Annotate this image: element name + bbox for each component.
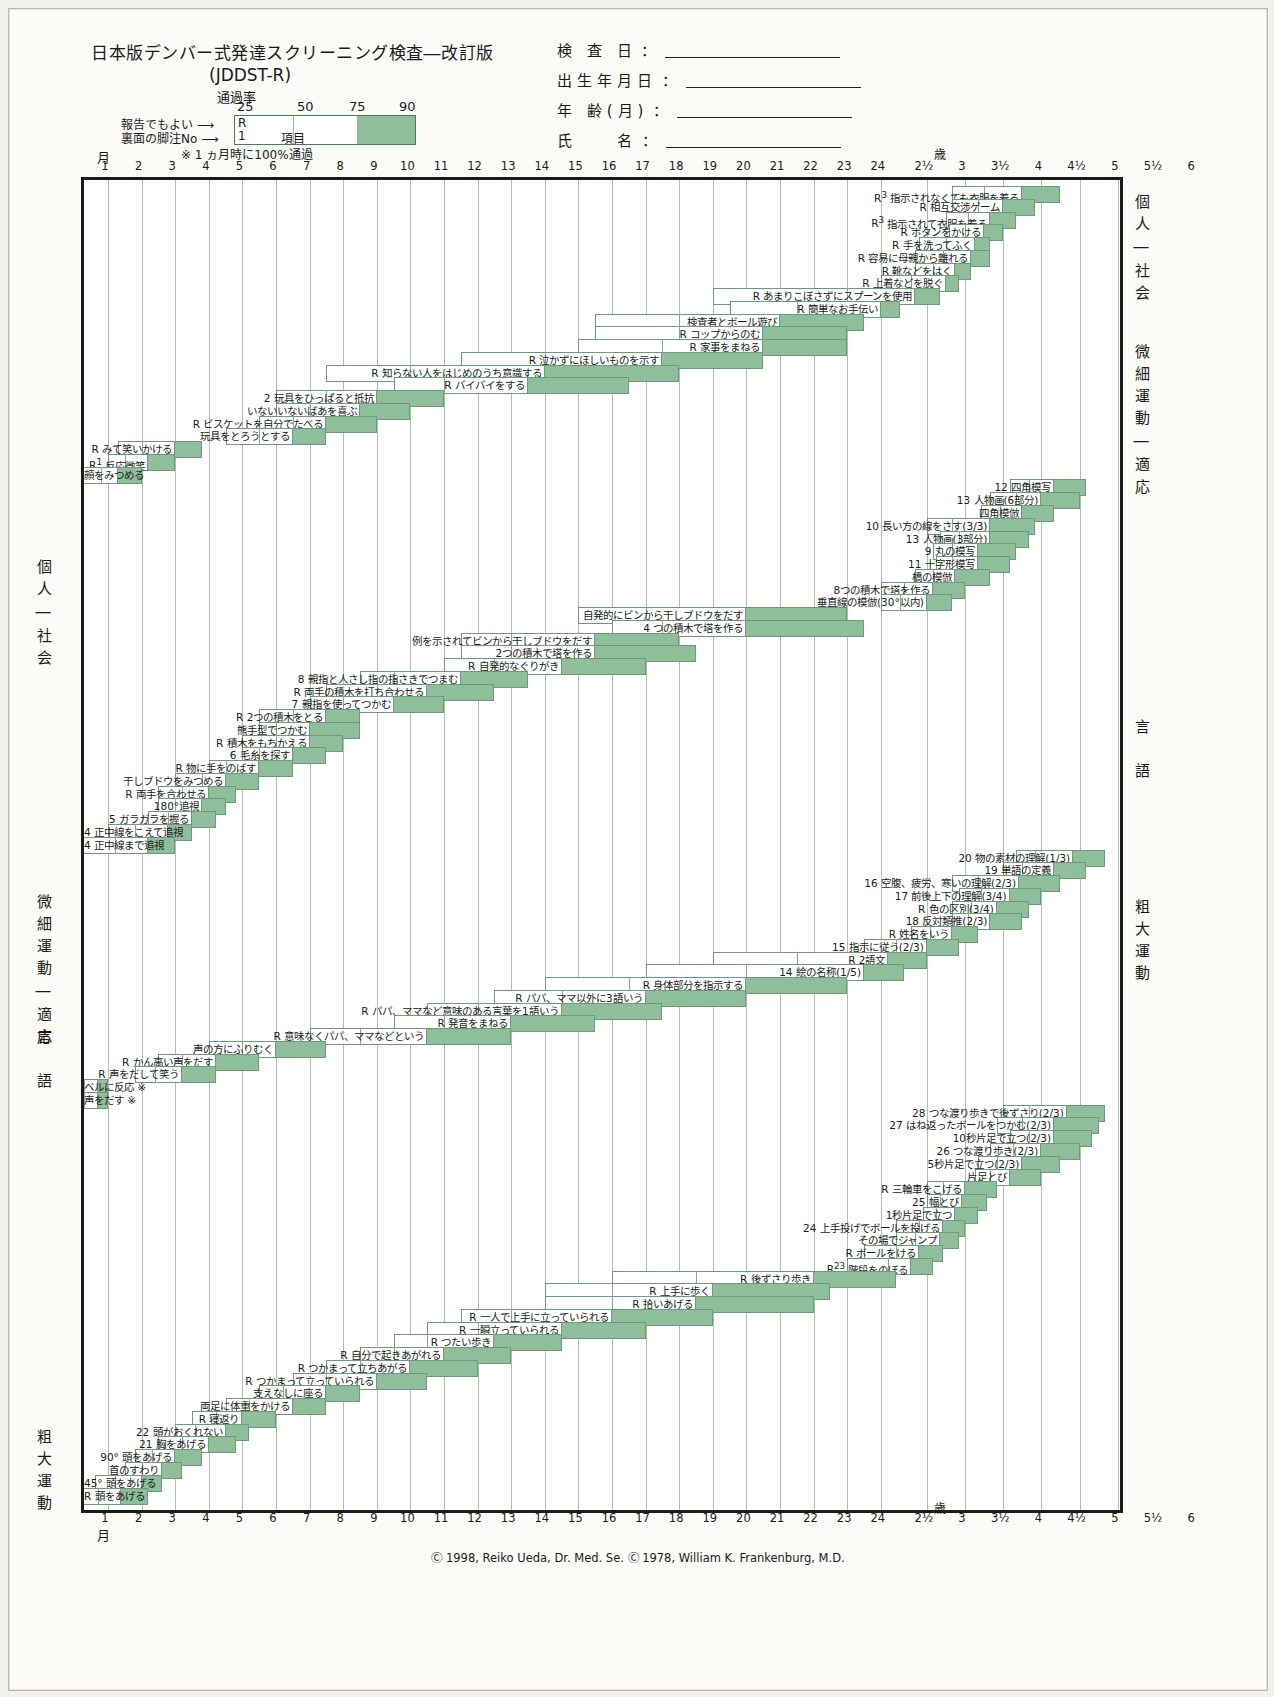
domain-label-right-gross-motor: 粗大運動 <box>1133 899 1148 987</box>
axis-tick-2½: 2½ <box>915 159 933 173</box>
axis-tick-5: 5 <box>236 159 243 173</box>
axis-tick-15: 15 <box>568 1511 583 1525</box>
name-input[interactable] <box>666 133 841 148</box>
axis-tick-13: 13 <box>501 159 516 173</box>
axis-tick-20: 20 <box>736 1511 751 1525</box>
axis-tick-18: 18 <box>669 159 684 173</box>
axis-tick-3½: 3½ <box>991 159 1009 173</box>
milestone-bar[interactable]: R 頭をあげる <box>84 1488 1120 1505</box>
developmental-chart: R3 指示されなくても衣服を着るR 相互交渉ゲームR3 指示されて衣服を着るR … <box>81 177 1123 1513</box>
axis-tick-10: 10 <box>400 159 415 173</box>
axis-tick-13: 13 <box>501 1511 516 1525</box>
axis-tick-7: 7 <box>303 1511 310 1525</box>
axis-tick-14: 14 <box>534 159 549 173</box>
axis-tick-3: 3 <box>958 159 965 173</box>
axis-tick-11: 11 <box>434 159 449 173</box>
chart-plot-area: R3 指示されなくても衣服を着るR 相互交渉ゲームR3 指示されて衣服を着るR … <box>84 180 1120 1510</box>
axis-tick-6: 6 <box>1188 159 1195 173</box>
axis-tick-1: 1 <box>101 1511 108 1525</box>
legend-footnote-number: 1 <box>238 129 246 143</box>
axis-tick-17: 17 <box>635 159 650 173</box>
axis-tick-17: 17 <box>635 1511 650 1525</box>
axis-tick-18: 18 <box>669 1511 684 1525</box>
page-title: 日本版デンバー式発達スクリーニング検査―改訂版 <box>91 39 494 64</box>
axis-tick-2: 2 <box>135 159 142 173</box>
bar-text: R 頭をあげる <box>84 1488 121 1505</box>
domain-label-left-gross-motor: 粗大運動 <box>35 1429 50 1517</box>
colon: ： <box>653 102 668 120</box>
legend-green-zone <box>357 116 415 144</box>
domain-label-right-fine-motor: 微細運動―適応 <box>1133 344 1148 501</box>
domain-label-right-personal-social: 個人―社会 <box>1133 194 1148 307</box>
axis-tick-4: 4 <box>202 159 209 173</box>
axis-unit-year-bottom: 歳 <box>934 1499 946 1516</box>
axis-tick-23: 23 <box>837 1511 852 1525</box>
axis-tick-14: 14 <box>534 1511 549 1525</box>
bar-prefix: R <box>84 1490 91 1502</box>
name-row: 氏 名 ： <box>557 129 841 150</box>
axis-tick-5½: 5½ <box>1144 1511 1162 1525</box>
axis-tick-10: 10 <box>400 1511 415 1525</box>
axis-unit-month-bottom: 月 <box>97 1525 110 1544</box>
name-label: 氏 名 <box>557 129 637 150</box>
axis-tick-3½: 3½ <box>991 1511 1009 1525</box>
axis-tick-9: 9 <box>370 159 377 173</box>
pct-tick-90: 90 <box>399 99 416 114</box>
axis-tick-8: 8 <box>337 159 344 173</box>
axis-tick-12: 12 <box>467 159 482 173</box>
page-subtitle: (JDDST-R) <box>209 65 291 85</box>
colon: ： <box>641 42 656 60</box>
axis-tick-22: 22 <box>803 1511 818 1525</box>
axis-top: 1234567891011121314151617181920212223242… <box>81 159 1117 175</box>
axis-bottom: 1234567891011121314151617181920212223242… <box>81 1511 1117 1527</box>
axis-tick-11: 11 <box>434 1511 449 1525</box>
axis-tick-24: 24 <box>870 1511 885 1525</box>
axis-tick-6: 6 <box>269 159 276 173</box>
legend-item-label: 項目 <box>281 129 305 146</box>
birth-date-row: 出生年月日 ： <box>557 69 861 90</box>
form-header: 日本版デンバー式発達スクリーニング検査―改訂版 (JDDST-R) 通過率 25… <box>9 9 1267 174</box>
axis-tick-21: 21 <box>770 159 785 173</box>
axis-tick-4: 4 <box>202 1511 209 1525</box>
colon: ： <box>642 132 657 150</box>
axis-tick-5: 5 <box>1111 159 1118 173</box>
copyright-notice: Ⓒ 1998, Reiko Ueda, Dr. Med. Se. Ⓒ 1978,… <box>9 1549 1267 1565</box>
axis-tick-9: 9 <box>370 1511 377 1525</box>
axis-tick-21: 21 <box>770 1511 785 1525</box>
axis-tick-16: 16 <box>602 1511 617 1525</box>
axis-tick-5½: 5½ <box>1144 159 1162 173</box>
pct-tick-50: 50 <box>297 99 314 114</box>
axis-tick-4: 4 <box>1035 1511 1042 1525</box>
age-months-row: 年 齢(月) ： <box>557 99 852 120</box>
colon: ： <box>662 72 677 90</box>
birth-date-input[interactable] <box>686 73 861 88</box>
domain-label-left-fine-motor: 微細運動―適応 <box>35 894 50 1051</box>
axis-tick-5: 5 <box>236 1511 243 1525</box>
exam-date-label: 検 査 日 <box>557 39 637 60</box>
axis-tick-19: 19 <box>702 159 717 173</box>
axis-tick-15: 15 <box>568 159 583 173</box>
axis-tick-16: 16 <box>602 159 617 173</box>
legend-bar <box>234 115 416 145</box>
axis-tick-7: 7 <box>303 159 310 173</box>
birth-date-label: 出生年月日 <box>557 69 657 90</box>
age-months-input[interactable] <box>677 103 852 118</box>
pct-tick-75: 75 <box>349 99 366 114</box>
axis-tick-24: 24 <box>870 159 885 173</box>
domain-label-left-language: 言 語 <box>35 1029 50 1095</box>
axis-tick-20: 20 <box>736 159 751 173</box>
axis-tick-3: 3 <box>169 159 176 173</box>
legend-footnote-arrow: 裏面の脚注No ⟶ <box>121 129 218 146</box>
axis-tick-4½: 4½ <box>1067 159 1085 173</box>
domain-label-right-language: 言 語 <box>1133 719 1148 785</box>
axis-tick-1: 1 <box>101 159 108 173</box>
exam-date-input[interactable] <box>665 43 840 58</box>
axis-tick-4½: 4½ <box>1067 1511 1085 1525</box>
exam-date-row: 検 査 日 ： <box>557 39 840 60</box>
axis-tick-8: 8 <box>337 1511 344 1525</box>
screening-form-sheet: 日本版デンバー式発達スクリーニング検査―改訂版 (JDDST-R) 通過率 25… <box>8 8 1268 1691</box>
axis-tick-6: 6 <box>269 1511 276 1525</box>
axis-tick-4: 4 <box>1035 159 1042 173</box>
legend-r-marker: R <box>238 116 246 130</box>
axis-tick-5: 5 <box>1111 1511 1118 1525</box>
